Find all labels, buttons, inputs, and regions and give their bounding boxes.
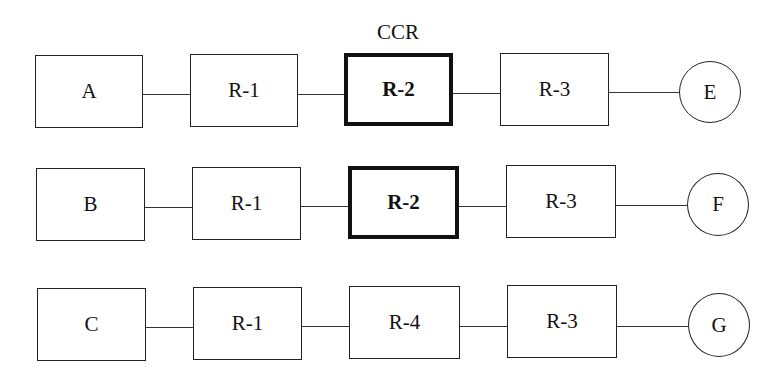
node-source-c: C <box>37 288 146 361</box>
node-source-a: A <box>35 55 143 128</box>
connector <box>301 206 348 207</box>
connector <box>145 207 192 208</box>
node-sink-g: G <box>688 293 750 357</box>
node-r4: R-4 <box>349 286 460 359</box>
node-r2-ccr: R-2 <box>344 53 453 126</box>
node-r3: R-3 <box>506 165 616 238</box>
node-source-b: B <box>36 168 145 241</box>
node-sink-e: E <box>679 61 741 123</box>
connector <box>616 205 687 206</box>
node-r2-ccr: R-2 <box>348 166 459 239</box>
connector <box>298 94 344 95</box>
connector <box>143 94 190 95</box>
node-r1: R-1 <box>193 287 302 360</box>
connector <box>460 326 507 327</box>
connector <box>609 92 679 93</box>
connector <box>302 326 349 327</box>
connector <box>146 327 193 328</box>
node-r1: R-1 <box>190 54 298 127</box>
node-r3: R-3 <box>500 53 609 126</box>
ccr-label: CCR <box>377 20 419 45</box>
node-r1: R-1 <box>192 167 301 240</box>
connector <box>617 326 688 327</box>
connector <box>453 93 500 94</box>
connector <box>459 206 506 207</box>
node-r3: R-3 <box>507 285 617 358</box>
node-sink-f: F <box>687 173 749 236</box>
